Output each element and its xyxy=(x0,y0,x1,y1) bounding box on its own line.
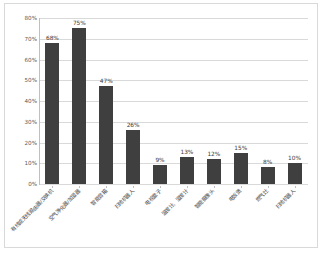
bar-value-label: 26% xyxy=(127,122,140,129)
bar-value-label: 68% xyxy=(46,35,59,42)
y-axis-line xyxy=(39,18,40,185)
bar-value-label: 8% xyxy=(263,159,272,166)
x-label-slot: 扫地机器人 xyxy=(120,186,147,246)
bar-slot: 8% xyxy=(254,18,281,184)
y-tick-label: 0% xyxy=(7,181,37,187)
bar[interactable] xyxy=(234,153,248,184)
y-tick-label: 80% xyxy=(7,15,37,21)
x-tick-label: 有线或无线路由器/交换机 xyxy=(10,188,54,232)
bar-slot: 47% xyxy=(93,18,120,184)
chart-frame: 0%10%20%30%40%50%60%70%80% 68%75%47%26%9… xyxy=(4,3,318,248)
bar-slot: 10% xyxy=(281,18,308,184)
y-tick-label: 10% xyxy=(7,160,37,166)
x-tick-label: 电饭煲 xyxy=(228,188,243,203)
plot-area: 68%75%47%26%9%13%12%15%8%10% xyxy=(39,18,308,184)
y-tick-label: 30% xyxy=(7,119,37,125)
x-label-slot: 智能摄像头 xyxy=(200,186,227,246)
x-tick-label: 燃气灶 xyxy=(255,188,270,203)
x-label-slot: 温度计、湿度计 xyxy=(174,186,201,246)
bar-value-label: 10% xyxy=(288,155,301,162)
bar-slot: 15% xyxy=(227,18,254,184)
gridline xyxy=(39,184,308,185)
x-label-slot: 扫地机器人 xyxy=(281,186,308,246)
x-tick-label: 智能音箱 xyxy=(90,188,108,206)
bar-value-label: 47% xyxy=(100,78,113,85)
x-label-slot: 电视盒子 xyxy=(147,186,174,246)
bar-value-label: 12% xyxy=(207,151,220,158)
bar[interactable] xyxy=(180,157,194,184)
bar-value-label: 75% xyxy=(73,20,86,27)
bar[interactable] xyxy=(72,28,86,184)
bar-slot: 75% xyxy=(66,18,93,184)
bar[interactable] xyxy=(261,167,275,184)
bar[interactable] xyxy=(207,159,221,184)
y-tick-label: 50% xyxy=(7,77,37,83)
y-tick-label: 70% xyxy=(7,36,37,42)
y-tick-label: 40% xyxy=(7,98,37,104)
y-axis-labels: 0%10%20%30%40%50%60%70%80% xyxy=(5,18,37,184)
bar[interactable] xyxy=(45,43,59,184)
bar-slot: 68% xyxy=(39,18,66,184)
bar[interactable] xyxy=(153,165,167,184)
bar-slot: 26% xyxy=(120,18,147,184)
bar-value-label: 13% xyxy=(180,149,193,156)
y-tick-label: 20% xyxy=(7,140,37,146)
x-label-slot: 电饭煲 xyxy=(227,186,254,246)
x-label-slot: 空气净化器/加湿器 xyxy=(66,186,93,246)
x-tick-label: 电视盒子 xyxy=(143,188,161,206)
bar-slot: 13% xyxy=(174,18,201,184)
bar-value-label: 15% xyxy=(234,145,247,152)
bar-slot: 12% xyxy=(200,18,227,184)
y-tick-label: 60% xyxy=(7,57,37,63)
bar[interactable] xyxy=(288,163,302,184)
x-label-slot: 燃气灶 xyxy=(254,186,281,246)
bar[interactable] xyxy=(126,130,140,184)
x-label-slot: 智能音箱 xyxy=(93,186,120,246)
x-axis-labels: 有线或无线路由器/交换机空气净化器/加湿器智能音箱扫地机器人电视盒子温度计、湿度… xyxy=(39,186,308,248)
bar-value-label: 9% xyxy=(155,157,164,164)
bar-slot: 9% xyxy=(147,18,174,184)
bar[interactable] xyxy=(99,86,113,184)
